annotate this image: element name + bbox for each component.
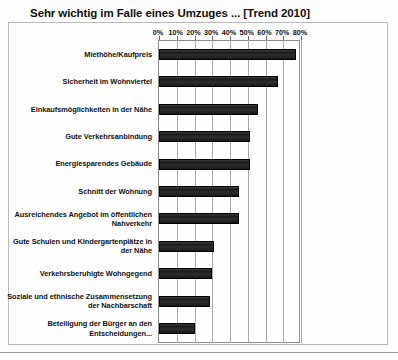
bar <box>159 186 239 197</box>
category-label: Beteiligung der Bürger an den Entscheidu… <box>4 319 152 337</box>
x-tick-label-20: 20% <box>186 28 200 37</box>
tickmark-70 <box>283 36 284 40</box>
tickmark-20 <box>195 36 196 40</box>
chart-title: Sehr wichtig im Falle eines Umzuges ... … <box>0 7 340 19</box>
bar-track <box>159 123 301 150</box>
bar-row: Verkehrsberuhigte Wohngegend <box>0 260 398 287</box>
bar-track <box>159 288 301 315</box>
x-axis-tick-labels: 0%10%20%30%40%50%60%70%80% <box>158 28 300 38</box>
category-label: Schnitt der Wohnung <box>4 187 152 196</box>
category-label: Verkehrsberuhigte Wohngegend <box>4 269 152 278</box>
scanned-page: Sehr wichtig im Falle eines Umzuges ... … <box>0 0 398 360</box>
bar <box>159 323 195 334</box>
page-divider <box>0 352 398 353</box>
bar-row: Gute Verkehrsanbindung <box>0 123 398 150</box>
tickmark-60 <box>266 36 267 40</box>
category-label: Soziale und ethnische Zusammensetzung de… <box>4 292 152 310</box>
bar <box>159 268 212 279</box>
bar-row: Einkaufsmöglichkeiten in der Nähe <box>0 96 398 123</box>
bar <box>159 76 278 87</box>
x-tick-label-10: 10% <box>169 28 183 37</box>
category-label: Einkaufsmöglichkeiten in der Nähe <box>4 105 152 114</box>
bar <box>159 296 210 307</box>
bar-track <box>159 205 301 232</box>
bar <box>159 49 296 60</box>
tickmark-50 <box>248 36 249 40</box>
category-label: Miethöhe/Kaufpreis <box>4 50 152 59</box>
category-label: Energiesparendes Gebäude <box>4 159 152 168</box>
bar-track <box>159 233 301 260</box>
x-tick-label-30: 30% <box>204 28 218 37</box>
tickmark-80 <box>301 36 302 40</box>
bar-row: Soziale und ethnische Zusammensetzung de… <box>0 288 398 315</box>
category-label: Ausreichendes Angebot im öffentlichen Na… <box>4 210 152 228</box>
bar <box>159 159 250 170</box>
bar-row: Gute Schulen und Kindergartenplätze in d… <box>0 233 398 260</box>
x-tick-label-60: 60% <box>257 28 271 37</box>
tickmark-30 <box>212 36 213 40</box>
category-label: Sicherheit im Wohnviertel <box>4 77 152 86</box>
x-tick-label-80: 80% <box>293 28 307 37</box>
bar-row: Schnitt der Wohnung <box>0 178 398 205</box>
x-tick-label-70: 70% <box>275 28 289 37</box>
bar-track <box>159 260 301 287</box>
bar-track <box>159 68 301 95</box>
bar <box>159 241 214 252</box>
bar <box>159 104 258 115</box>
bar-row: Ausreichendes Angebot im öffentlichen Na… <box>0 205 398 232</box>
bar <box>159 131 250 142</box>
bar-track <box>159 178 301 205</box>
bar-row: Miethöhe/Kaufpreis <box>0 41 398 68</box>
tickmark-0 <box>159 36 160 40</box>
x-tick-label-0: 0% <box>153 28 163 37</box>
bar-track <box>159 96 301 123</box>
tickmark-10 <box>177 36 178 40</box>
category-label: Gute Schulen und Kindergartenplätze in d… <box>4 237 152 255</box>
bar-track <box>159 151 301 178</box>
bar-track <box>159 315 301 342</box>
bar-row: Sicherheit im Wohnviertel <box>0 68 398 95</box>
tickmark-40 <box>230 36 231 40</box>
bar-row: Energiesparendes Gebäude <box>0 151 398 178</box>
x-tick-label-40: 40% <box>222 28 236 37</box>
category-label: Gute Verkehrsanbindung <box>4 132 152 141</box>
bar <box>159 213 239 224</box>
bar-track <box>159 41 301 68</box>
bar-row: Beteiligung der Bürger an den Entscheidu… <box>0 315 398 342</box>
x-tick-label-50: 50% <box>240 28 254 37</box>
